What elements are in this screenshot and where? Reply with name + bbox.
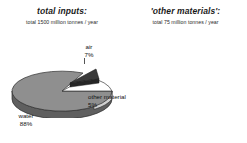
pie-chart-total-inputs xyxy=(8,62,116,118)
pie-label-other-material: other material 5% xyxy=(88,93,122,109)
chart-title-other-materials: 'other materials': xyxy=(124,6,247,16)
pie-label-water-pct: 88% xyxy=(6,120,46,128)
pie-label-water: water 88% xyxy=(6,112,46,128)
chart-panel-total-inputs: total inputs: total 1500 million tonnes … xyxy=(0,0,124,143)
pie-label-other-material-name: other material xyxy=(88,93,126,100)
chart-title-total-inputs: total inputs: xyxy=(0,6,124,16)
pie-label-air: air 7% xyxy=(76,43,102,59)
chart-subtitle-other-materials: total 75 million tonnes / year xyxy=(124,19,247,25)
pie-label-air-pct: 7% xyxy=(76,51,102,59)
pie-label-air-name: air xyxy=(86,43,93,50)
pie-label-other-material-pct: 5% xyxy=(88,101,122,109)
chart-panel-other-materials: 'other materials': total 75 million tonn… xyxy=(124,0,247,143)
chart-subtitle-total-inputs: total 1500 million tonnes / year xyxy=(0,19,124,25)
pie-label-water-name: water xyxy=(18,112,33,119)
